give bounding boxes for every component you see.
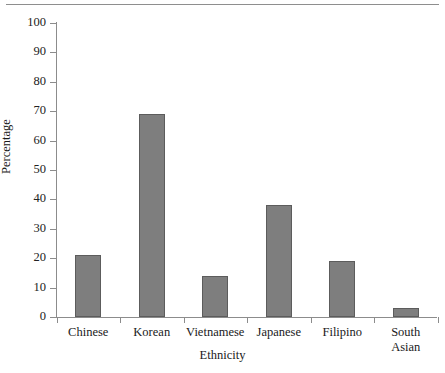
y-tick-label: 0 [40,308,46,324]
bar [393,308,419,317]
x-axis-label-line: South [374,325,438,340]
y-tick-label: 80 [34,73,47,89]
y-tick-mark [50,82,56,83]
y-axis-line [56,22,57,318]
y-tick-mark [50,170,56,171]
x-axis-label: Chinese [57,325,121,340]
y-tick-label: 30 [34,220,47,236]
x-tick-mark [311,317,312,323]
bar [266,205,292,317]
x-tick-mark [247,317,248,323]
y-tick-label: 100 [27,14,46,30]
x-tick-mark [374,317,375,323]
y-tick-label: 60 [34,132,47,148]
x-axis-label: Korean [120,325,184,340]
y-tick-mark [50,111,56,112]
y-tick-label: 10 [34,279,47,295]
x-tick-mark [57,317,58,323]
x-tick-mark [120,317,121,323]
y-tick-label: 40 [34,190,47,206]
x-tick-mark [438,317,439,323]
y-tick-mark [50,288,56,289]
x-tick-mark [184,317,185,323]
y-tick-mark [50,199,56,200]
y-axis-title: Percentage [0,87,14,207]
y-tick-mark [50,258,56,259]
bar [139,114,165,317]
x-axis-title: Ethnicity [0,348,445,363]
x-axis-label: Japanese [247,325,311,340]
y-tick-mark [50,141,56,142]
y-tick-mark [50,317,56,318]
bar [75,255,101,317]
y-tick-mark [50,229,56,230]
x-axis-label: Filipino [311,325,375,340]
y-tick-label: 20 [34,249,47,265]
x-axis-label: Vietnamese [184,325,248,340]
bar-chart-figure: 0102030405060708090100 ChineseKoreanViet… [0,0,445,373]
y-tick-label: 50 [34,161,47,177]
top-horizontal-rule [6,4,439,5]
y-tick-mark [50,52,56,53]
y-tick-label: 90 [34,43,47,59]
bar [329,261,355,317]
bar [202,276,228,317]
y-tick-label: 70 [34,102,47,118]
y-tick-mark [50,23,56,24]
